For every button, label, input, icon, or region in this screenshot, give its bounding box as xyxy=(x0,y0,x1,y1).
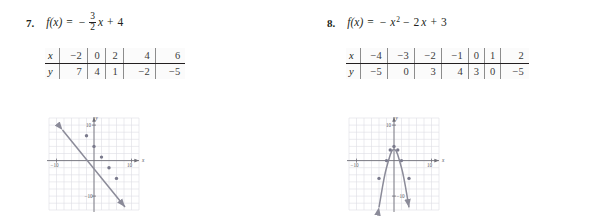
problem-8-coordinate-plane: −10 10 10 −10 x y xyxy=(345,112,453,216)
x-cell: 4 xyxy=(123,48,155,64)
table-row: y −5 0 3 4 3 0 −5 xyxy=(346,64,529,80)
table-row: x −4 −3 −2 −1 0 1 2 xyxy=(346,48,529,64)
variable-x: x xyxy=(421,17,426,29)
y-cell: 7 xyxy=(59,64,87,80)
data-point xyxy=(385,159,388,162)
problem-8-table-wrap: x −4 −3 −2 −1 0 1 2 y −5 0 3 4 3 0 xyxy=(346,48,529,79)
exponent-two: 2 xyxy=(396,16,400,24)
data-point xyxy=(107,166,110,169)
table-row: y 7 4 1 −2 −5 xyxy=(45,64,185,80)
data-point xyxy=(377,177,380,180)
x-cell: 2 xyxy=(105,48,123,64)
problem-7-table-wrap: x −2 0 2 4 6 y 7 4 1 −2 −5 xyxy=(45,48,185,79)
x-tick-negative-ten: −10 xyxy=(51,162,60,168)
variable-x: x xyxy=(98,17,103,29)
y-tick-positive-ten: 10 xyxy=(386,122,392,128)
equals-sign: = xyxy=(66,17,73,29)
problem-7-graph: −10 10 10 −10 x y xyxy=(45,112,153,216)
fraction-denominator: 2 xyxy=(89,22,96,33)
fraction-three-halves: 3 2 xyxy=(89,12,96,32)
y-cell: 3 xyxy=(414,64,441,80)
data-point xyxy=(389,148,392,151)
data-point xyxy=(92,145,95,148)
data-point xyxy=(392,145,395,148)
table-row: x −2 0 2 4 6 xyxy=(45,48,185,64)
x-cell: −1 xyxy=(441,48,468,64)
data-point xyxy=(115,177,118,180)
x-cell: −2 xyxy=(414,48,441,64)
row-label-x: x xyxy=(346,48,360,64)
problem-7: 7. f(x) = − 3 2 x + 4 x −2 0 2 xyxy=(0,0,301,222)
y-cell: −5 xyxy=(360,64,387,80)
data-point xyxy=(396,148,399,151)
plus-sign: + xyxy=(107,17,114,29)
plus-sign: + xyxy=(430,17,437,29)
constant-term: 3 xyxy=(441,17,447,29)
data-point xyxy=(85,134,88,137)
problem-7-number: 7. xyxy=(26,18,34,29)
x-cell: 6 xyxy=(155,48,185,64)
y-cell: 4 xyxy=(87,64,105,80)
data-point xyxy=(400,159,403,162)
fraction-numerator: 3 xyxy=(89,12,96,22)
y-cell: −5 xyxy=(501,64,529,80)
x-cell: −4 xyxy=(360,48,387,64)
problem-8: 8. f(x) = − x 2 − 2 x + 3 x −4 −3 −2 xyxy=(301,0,602,222)
x-cell: 1 xyxy=(484,48,500,64)
problem-7-value-table: x −2 0 2 4 6 y 7 4 1 −2 −5 xyxy=(45,48,185,79)
problem-7-heading: 7. f(x) = − 3 2 x + 4 xyxy=(26,10,124,36)
squared-variable: x xyxy=(390,17,395,29)
y-cell: 0 xyxy=(484,64,500,80)
y-tick-positive-ten: 10 xyxy=(86,122,92,128)
function-notation: f(x) xyxy=(347,17,363,29)
minus-sign: − xyxy=(403,17,410,29)
problem-8-equation: f(x) = − x 2 − 2 x + 3 xyxy=(346,17,447,29)
x-tick-positive-ten: 10 xyxy=(427,162,433,168)
y-cell: 0 xyxy=(387,64,414,80)
equals-sign: = xyxy=(367,17,374,29)
problem-7-coordinate-plane: −10 10 10 −10 x y xyxy=(45,112,153,216)
negative-sign: − xyxy=(79,17,86,29)
y-cell: −5 xyxy=(155,64,185,80)
y-tick-negative-ten: −10 xyxy=(397,193,406,199)
worksheet-page: 7. f(x) = − 3 2 x + 4 x −2 0 2 xyxy=(0,0,602,222)
data-point xyxy=(100,155,103,158)
linear-coefficient: 2 xyxy=(414,17,420,29)
function-notation: f(x) xyxy=(46,17,62,29)
x-cell: 2 xyxy=(501,48,529,64)
constant-term: 4 xyxy=(118,17,124,29)
x-tick-positive-ten: 10 xyxy=(127,162,133,168)
problem-8-heading: 8. f(x) = − x 2 − 2 x + 3 xyxy=(327,10,448,36)
row-label-y: y xyxy=(45,64,59,80)
y-cell: 3 xyxy=(468,64,484,80)
x-cell: 0 xyxy=(87,48,105,64)
y-cell: −2 xyxy=(123,64,155,80)
y-tick-negative-ten: −10 xyxy=(85,193,94,199)
row-label-y: y xyxy=(346,64,360,80)
x-tick-negative-ten: −10 xyxy=(351,162,360,168)
y-cell: 4 xyxy=(441,64,468,80)
x-cell: −3 xyxy=(387,48,414,64)
problem-8-value-table: x −4 −3 −2 −1 0 1 2 y −5 0 3 4 3 0 xyxy=(346,48,529,79)
graph-background xyxy=(345,112,453,216)
x-cell: 0 xyxy=(468,48,484,64)
y-cell: 1 xyxy=(105,64,123,80)
problem-7-equation: f(x) = − 3 2 x + 4 xyxy=(45,13,124,33)
problem-8-number: 8. xyxy=(327,18,335,29)
x-cell: −2 xyxy=(59,48,87,64)
negative-sign: − xyxy=(380,17,387,29)
row-label-x: x xyxy=(45,48,59,64)
data-point xyxy=(407,177,410,180)
graph-background xyxy=(45,112,153,216)
problem-8-graph: −10 10 10 −10 x y xyxy=(345,112,453,216)
